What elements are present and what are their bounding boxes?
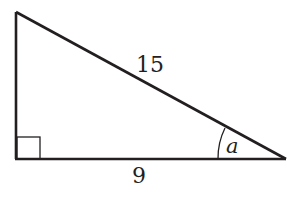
right-angle-marker [17,137,40,159]
angle-label: a [226,134,239,158]
triangle [15,12,286,159]
triangle-diagram: 15 9 a [0,0,294,205]
angle-arc [218,128,225,159]
base-label: 9 [132,163,146,188]
hypotenuse-label: 15 [136,52,164,77]
hypotenuse [16,12,286,159]
